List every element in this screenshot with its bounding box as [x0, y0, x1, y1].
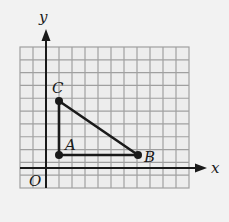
- point-a: [55, 151, 63, 159]
- label-origin: O: [29, 172, 41, 190]
- label-y-axis: y: [38, 8, 48, 26]
- label-x-axis: x: [211, 159, 220, 177]
- label-c: C: [52, 79, 64, 97]
- y-axis-arrow-icon: [42, 29, 51, 41]
- label-a: A: [63, 136, 76, 154]
- point-b: [134, 151, 142, 159]
- label-b: B: [143, 148, 155, 166]
- coordinate-diagram: A B C O x y: [0, 0, 229, 222]
- point-c: [55, 97, 63, 105]
- x-axis-arrow-icon: [195, 164, 207, 173]
